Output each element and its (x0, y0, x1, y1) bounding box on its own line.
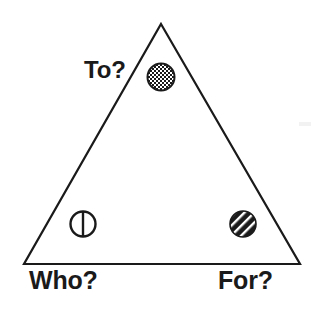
triangle-outline (24, 24, 300, 264)
checkerboard-circle-icon (148, 64, 175, 91)
marker-for (230, 211, 256, 237)
marker-to (148, 64, 175, 91)
vertex-label-for: For? (218, 268, 273, 293)
triangle-diagram-svg (0, 0, 322, 309)
marker-who (71, 212, 96, 237)
diagonal-hatched-circle-icon (230, 211, 256, 237)
vertex-label-who: Who? (29, 268, 98, 293)
scan-artifact (299, 122, 311, 126)
figure-container: To? Who? For? (0, 0, 322, 309)
vertex-label-to: To? (84, 58, 126, 82)
